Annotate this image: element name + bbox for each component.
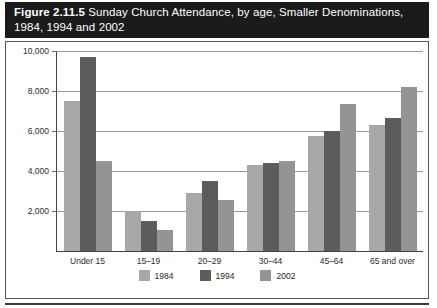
bar-1994[interactable]	[202, 181, 218, 251]
bottom-rule	[5, 303, 429, 305]
y-axis-label: 8,000	[28, 86, 49, 96]
bar-2002[interactable]	[401, 87, 417, 251]
bar-group: 15–19	[118, 51, 179, 251]
bar-1984[interactable]	[64, 101, 80, 251]
bar-2002[interactable]	[279, 161, 295, 251]
figure-container: Figure 2.11.5 Sunday Church Attendance, …	[0, 0, 437, 308]
plot-area: 2,0004,0006,0008,00010,000 Under 1515–19…	[56, 51, 423, 252]
y-axis-label: 6,000	[28, 126, 49, 136]
legend-swatch-icon	[139, 270, 150, 281]
bar-1984[interactable]	[247, 165, 263, 251]
bar-1994[interactable]	[385, 118, 401, 251]
figure-number: Figure 2.11.5	[14, 6, 85, 18]
bar-2002[interactable]	[157, 230, 173, 251]
bar-1984[interactable]	[308, 136, 324, 251]
legend-swatch-icon	[260, 270, 271, 281]
y-axis-label: 2,000	[28, 206, 49, 216]
bar-2002[interactable]	[96, 161, 112, 251]
figure-title-bar: Figure 2.11.5 Sunday Church Attendance, …	[5, 2, 429, 38]
figure-caption-line-2: 1984, 1994 and 2002	[14, 21, 125, 33]
bar-group: 45–64	[301, 51, 362, 251]
bar-1994[interactable]	[141, 221, 157, 251]
legend-item-1994[interactable]: 1994	[200, 270, 235, 281]
bar-group: Under 15	[57, 51, 118, 251]
chart-frame: 2,0004,0006,0008,00010,000 Under 1515–19…	[5, 41, 429, 299]
x-axis-label: 65 and over	[370, 256, 415, 266]
bar-1994[interactable]	[324, 131, 340, 251]
bar-2002[interactable]	[340, 104, 356, 251]
legend-item-2002[interactable]: 2002	[260, 270, 295, 281]
bar-2002[interactable]	[218, 200, 234, 251]
x-axis-label: 30–44	[259, 256, 283, 266]
bar-1984[interactable]	[125, 211, 141, 251]
bar-group: 30–44	[240, 51, 301, 251]
legend-label: 2002	[276, 271, 295, 281]
bar-group: 65 and over	[362, 51, 423, 251]
legend-label: 1994	[216, 271, 235, 281]
bar-1984[interactable]	[369, 125, 385, 251]
x-axis-label: 45–64	[320, 256, 344, 266]
y-axis-label: 4,000	[28, 166, 49, 176]
bar-1994[interactable]	[80, 57, 96, 251]
x-axis-label: 15–19	[137, 256, 161, 266]
figure-title-line-1: Figure 2.11.5 Sunday Church Attendance, …	[14, 5, 421, 20]
figure-caption-line-1: Sunday Church Attendance, by age, Smalle…	[88, 6, 403, 18]
chart-legend: 198419942002	[6, 270, 428, 281]
y-axis-label: 10,000	[23, 46, 49, 56]
bar-1994[interactable]	[263, 163, 279, 251]
legend-label: 1984	[155, 271, 174, 281]
bar-groups: Under 1515–1920–2930–4445–6465 and over	[57, 51, 423, 251]
bar-group: 20–29	[179, 51, 240, 251]
x-axis-label: 20–29	[198, 256, 222, 266]
bar-1984[interactable]	[186, 193, 202, 251]
figure-title-line-2: 1984, 1994 and 2002	[14, 20, 421, 35]
legend-item-1984[interactable]: 1984	[139, 270, 174, 281]
x-axis-label: Under 15	[70, 256, 105, 266]
legend-swatch-icon	[200, 270, 211, 281]
